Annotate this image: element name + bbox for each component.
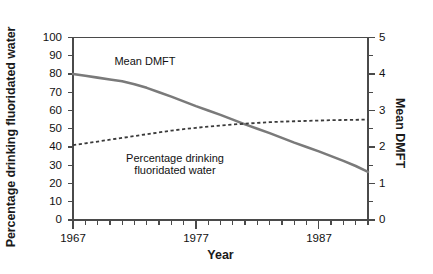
plot-canvas [0,0,433,274]
chart-figure: Percentage drinking fluoridated water Me… [0,0,433,274]
